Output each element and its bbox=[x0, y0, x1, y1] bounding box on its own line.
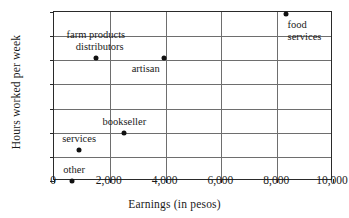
scatter-chart: Hours worked per week food servicesfarm … bbox=[0, 0, 349, 218]
data-point-label-bookseller: bookseller bbox=[102, 116, 146, 128]
y-tick-mark bbox=[50, 109, 54, 110]
horizontal-gridline bbox=[54, 84, 331, 85]
y-tick-mark bbox=[50, 133, 54, 134]
data-point-label-other: other bbox=[63, 164, 85, 176]
y-tick-mark bbox=[50, 36, 54, 37]
y-tick-mark bbox=[50, 12, 54, 13]
y-tick-mark bbox=[50, 157, 54, 158]
vertical-gridline bbox=[221, 12, 222, 179]
plot-area: food servicesfarm products distributorsa… bbox=[53, 11, 332, 180]
data-point-services[interactable] bbox=[77, 148, 82, 153]
data-point-bookseller[interactable] bbox=[122, 131, 127, 136]
data-point-food-services[interactable] bbox=[283, 12, 288, 17]
x-tick-label: 6,000 bbox=[207, 174, 233, 186]
y-tick-mark bbox=[50, 60, 54, 61]
x-tick-label: 4,000 bbox=[152, 174, 178, 186]
vertical-gridline bbox=[277, 12, 278, 179]
x-tick-label: 2,000 bbox=[96, 174, 122, 186]
data-point-other[interactable] bbox=[70, 179, 75, 184]
vertical-gridline bbox=[166, 12, 167, 179]
data-point-artisan[interactable] bbox=[161, 56, 166, 61]
data-point-label-artisan: artisan bbox=[132, 63, 160, 75]
horizontal-gridline bbox=[54, 157, 331, 158]
y-axis-title: Hours worked per week bbox=[10, 7, 22, 177]
data-point-label-food-services: food services bbox=[288, 19, 322, 42]
x-tick-label: 10,000 bbox=[316, 174, 348, 186]
horizontal-gridline bbox=[54, 109, 331, 110]
y-tick-mark bbox=[50, 84, 54, 85]
x-axis-title: Earnings (in pesos) bbox=[0, 198, 349, 210]
x-tick-label: 0 bbox=[50, 174, 56, 186]
data-point-label-farm-products-distributors: farm products distributors bbox=[67, 29, 126, 52]
x-tick-label: 8,000 bbox=[263, 174, 289, 186]
data-point-farm-products-distributors[interactable] bbox=[93, 56, 98, 61]
data-point-label-services: services bbox=[62, 133, 96, 145]
